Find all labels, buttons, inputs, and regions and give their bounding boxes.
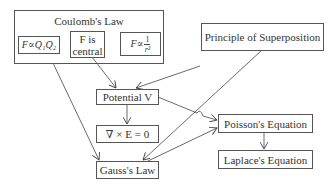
curl-label: ∇ × E = 0 [106,128,149,140]
diagram: Coulomb's Law F∝Q₁Q₂ F is central F∝ 1 r… [0,0,334,187]
f-is-central-line1: F is [79,33,95,45]
fraction-numerator: 1 [144,35,150,45]
f-prop-prefix: F∝ [131,38,144,50]
gauss-box: Gauss's Law [96,161,159,179]
fraction: 1 r² [144,35,150,54]
laplace-label: Laplace's Equation [224,154,308,166]
edge-superposition-gauss [143,50,262,160]
superposition-label: Principle of Superposition [205,31,321,43]
curl-box: ∇ × E = 0 [96,125,159,143]
coulombs-law-label: Coulomb's Law [54,15,124,27]
potential-label: Potential V [103,91,153,103]
gauss-label: Gauss's Law [100,164,155,176]
poisson-box: Poisson's Equation [218,114,313,133]
potential-box: Potential V [96,89,159,105]
f-prop-inverse-r2-box: F∝ 1 r² [120,32,161,56]
f-is-central-line2: central [73,45,103,57]
superposition-box: Principle of Superposition [201,23,324,51]
edge-potential-poisson [158,97,217,120]
f-prop-q1q2-box: F∝Q₁Q₂ [18,36,60,54]
poisson-label: Poisson's Equation [224,118,307,130]
f-is-central-box: F is central [70,31,105,58]
f-prop-q1q2-label: F∝Q₁Q₂ [22,39,56,51]
edge-superposition-potential [136,66,200,88]
fraction-denominator: r² [145,45,151,54]
laplace-box: Laplace's Equation [218,150,313,169]
edge-coulomb-gauss [53,63,99,160]
